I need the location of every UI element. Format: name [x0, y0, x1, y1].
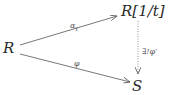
- label-alpha-t: αt: [70, 22, 78, 33]
- arrow-alpha: [20, 16, 117, 45]
- label-phi: φ: [74, 60, 80, 68]
- label-unique-phi-prime: ∃!φ′: [142, 48, 157, 56]
- node-s: S: [132, 79, 142, 94]
- node-r: R: [3, 41, 14, 56]
- label-alpha-subscript: t: [75, 25, 77, 32]
- node-r-localized: R[1/t]: [121, 4, 165, 19]
